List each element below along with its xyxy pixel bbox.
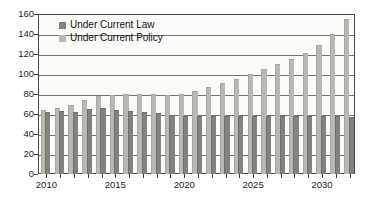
bar-under-current-law-2014: [100, 108, 105, 174]
bar-under-current-law-2022: [211, 116, 216, 174]
x-tick-mark-2032: [350, 174, 351, 178]
bar-under-current-law-2020: [183, 116, 188, 174]
bar-under-current-law-2030: [321, 116, 326, 174]
x-tick-mark-2031: [336, 174, 337, 178]
x-tick-mark-2012: [74, 174, 75, 178]
bar-under-current-law-2032: [349, 117, 354, 174]
y-tick-label: 160: [4, 9, 34, 19]
y-tick-label: 40: [4, 129, 34, 139]
x-tick-label-2030: 2030: [311, 180, 332, 190]
legend-swatch-icon: [59, 22, 66, 29]
y-tick-label: 0: [4, 169, 34, 179]
x-tick-mark-2018: [157, 174, 158, 178]
x-tick-mark-2019: [170, 174, 171, 178]
x-tick-mark-2025: [253, 174, 254, 178]
x-tick-mark-2016: [129, 174, 130, 178]
bar-under-current-law-2017: [142, 112, 147, 174]
x-tick-mark-2029: [308, 174, 309, 178]
x-tick-mark-2030: [322, 174, 323, 178]
bar-under-current-law-2028: [293, 116, 298, 174]
chart-legend: Under Current Law Under Current Policy: [59, 20, 163, 43]
y-tick-label: 100: [4, 69, 34, 79]
bar-under-current-law-2026: [266, 116, 271, 174]
y-tick-label: 20: [4, 149, 34, 159]
x-tick-label-2025: 2025: [243, 180, 264, 190]
bar-under-current-law-2011: [59, 111, 64, 174]
bar-under-current-law-2024: [238, 116, 243, 174]
x-tick-mark-2020: [184, 174, 185, 178]
bar-under-current-law-2018: [156, 113, 161, 174]
x-tick-mark-2028: [294, 174, 295, 178]
y-tick-label: 120: [4, 49, 34, 59]
x-tick-mark-2023: [226, 174, 227, 178]
y-tick-label: 80: [4, 89, 34, 99]
x-tick-mark-2021: [198, 174, 199, 178]
legend-item-label: Under Current Law: [70, 20, 154, 30]
bar-under-current-law-2025: [252, 116, 257, 174]
x-tick-mark-2022: [212, 174, 213, 178]
legend-item-under-current-law: Under Current Law: [59, 20, 163, 30]
x-tick-mark-2027: [281, 174, 282, 178]
x-tick-mark-2013: [88, 174, 89, 178]
bar-under-current-law-2016: [128, 111, 133, 174]
legend-swatch-icon: [59, 35, 66, 42]
bar-under-current-law-2012: [73, 112, 78, 174]
bar-under-current-law-2015: [114, 110, 119, 174]
y-tick-mark: [34, 174, 38, 175]
x-tick-mark-2015: [115, 174, 116, 178]
x-tick-mark-2010: [46, 174, 47, 178]
x-tick-mark-2024: [239, 174, 240, 178]
bar-under-current-law-2021: [197, 116, 202, 174]
bar-under-current-law-2027: [280, 116, 285, 174]
bar-under-current-law-2010: [45, 112, 50, 174]
x-tick-mark-2011: [60, 174, 61, 178]
bar-under-current-law-2019: [169, 115, 174, 174]
bar-under-current-law-2013: [87, 109, 92, 174]
x-tick-label-2020: 2020: [174, 180, 195, 190]
x-tick-mark-2014: [102, 174, 103, 178]
y-tick-label: 60: [4, 109, 34, 119]
legend-item-under-current-policy: Under Current Policy: [59, 33, 163, 43]
bar-under-current-law-2029: [307, 116, 312, 174]
x-tick-mark-2017: [143, 174, 144, 178]
x-tick-label-2010: 2010: [36, 180, 57, 190]
legend-item-label: Under Current Policy: [70, 33, 163, 43]
bar-under-current-law-2031: [335, 116, 340, 174]
bar-chart-figure: 160 140 120 100 80 60 40 20 0 2010201520…: [0, 0, 368, 212]
x-tick-label-2015: 2015: [105, 180, 126, 190]
y-tick-label: 140: [4, 29, 34, 39]
x-tick-mark-2026: [267, 174, 268, 178]
bar-under-current-law-2023: [224, 116, 229, 174]
